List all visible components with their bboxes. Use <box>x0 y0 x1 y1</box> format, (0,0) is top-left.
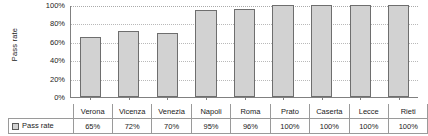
value-cell: 100% <box>310 119 349 134</box>
value-cell: 65% <box>73 119 112 134</box>
y-tick-label: 0% <box>54 94 65 102</box>
bar-slot <box>71 6 110 97</box>
category-label-cell: Roma <box>231 104 270 119</box>
category-labels-row: VeronaVicenzaVeneziaNapoliRomaPratoCaser… <box>9 104 428 119</box>
bar-slot <box>110 6 149 97</box>
values-row: Pass rate 65%72%70%95%96%100%100%100%100… <box>9 119 428 134</box>
y-tick-label: 60% <box>50 39 65 47</box>
plot-wrapper: Pass rate 100%80%60%40%20%0% <box>0 0 421 104</box>
y-tick-label: 100% <box>46 2 65 10</box>
bar[interactable] <box>157 33 178 97</box>
y-axis-tick-labels: 100%80%60%40%20%0% <box>36 6 67 98</box>
bar-series <box>71 6 418 97</box>
category-label-cell: Lecce <box>349 104 388 119</box>
legend-swatch-icon <box>12 123 19 130</box>
bar[interactable] <box>195 10 216 97</box>
bar[interactable] <box>80 37 101 97</box>
value-cell: 95% <box>191 119 230 134</box>
y-axis-title: Pass rate <box>10 10 19 80</box>
bar-slot <box>302 6 341 97</box>
value-cell: 100% <box>270 119 309 134</box>
data-table: VeronaVicenzaVeneziaNapoliRomaPratoCaser… <box>8 104 428 134</box>
bar[interactable] <box>350 5 371 97</box>
category-label-cell: Prato <box>270 104 309 119</box>
bar[interactable] <box>272 5 293 97</box>
table-corner-cell <box>9 104 74 119</box>
x-axis-tick <box>283 97 284 100</box>
y-tick-label: 80% <box>50 20 65 28</box>
x-axis-tick <box>167 97 168 100</box>
bar-slot <box>148 6 187 97</box>
legend-cell: Pass rate <box>9 119 74 134</box>
plot-area <box>70 6 418 98</box>
bar[interactable] <box>388 5 409 97</box>
bar-slot <box>341 6 380 97</box>
bar-slot <box>225 6 264 97</box>
bar[interactable] <box>311 5 332 97</box>
category-label-cell: Venezia <box>152 104 191 119</box>
legend-label: Pass rate <box>22 122 54 130</box>
value-cell: 100% <box>389 119 428 134</box>
category-label-cell: Napoli <box>191 104 230 119</box>
value-cell: 70% <box>152 119 191 134</box>
x-axis-tick <box>129 97 130 100</box>
value-cell: 72% <box>112 119 151 134</box>
category-label-cell: Vicenza <box>112 104 151 119</box>
value-cell: 100% <box>349 119 388 134</box>
y-tick-label: 40% <box>50 57 65 65</box>
bar-slot <box>264 6 303 97</box>
x-axis-tick <box>360 97 361 100</box>
category-label-cell: Rieti <box>389 104 428 119</box>
category-label-cell: Caserta <box>310 104 349 119</box>
bar[interactable] <box>118 31 139 97</box>
x-axis-tick <box>322 97 323 100</box>
x-axis-tick <box>245 97 246 100</box>
y-tick-label: 20% <box>50 76 65 84</box>
bar[interactable] <box>234 9 255 97</box>
bar-slot <box>380 6 419 97</box>
x-axis-tick <box>90 97 91 100</box>
value-cell: 96% <box>231 119 270 134</box>
bar-slot <box>187 6 226 97</box>
category-label-cell: Verona <box>73 104 112 119</box>
x-axis-tick <box>399 97 400 100</box>
x-axis-tick <box>206 97 207 100</box>
